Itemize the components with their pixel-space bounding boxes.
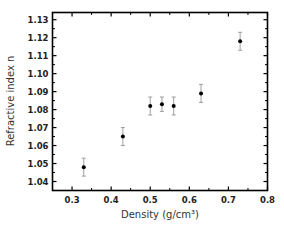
y-tick-label: 1.12 [28, 33, 49, 43]
y-tick-label: 1.08 [28, 105, 49, 115]
y-tick-label: 1.13 [28, 15, 49, 25]
y-tick-label: 1.10 [28, 69, 49, 79]
x-axis-ticks: 0.30.40.50.60.70.8 [65, 13, 276, 205]
x-tick-label: 0.8 [260, 195, 275, 205]
point-marker [160, 102, 164, 106]
data-point [172, 97, 176, 115]
data-point [82, 158, 86, 176]
data-point [199, 84, 203, 102]
point-marker [199, 91, 203, 95]
point-marker [148, 104, 152, 108]
plot-frame [53, 13, 268, 191]
x-tick-label: 0.6 [182, 195, 197, 205]
x-axis-label: Density (g/cm³) [121, 209, 199, 220]
data-point [238, 32, 242, 50]
y-tick-label: 1.04 [28, 177, 49, 187]
scatter-chart: 0.30.40.50.60.70.8 1.041.051.061.071.081… [0, 0, 284, 226]
y-axis-label: Refractive index n [5, 56, 16, 147]
x-tick-label: 0.5 [143, 195, 158, 205]
point-marker [82, 165, 86, 169]
point-marker [172, 104, 176, 108]
y-axis-ticks: 1.041.051.061.071.081.091.101.111.121.13 [28, 15, 268, 187]
data-point [148, 97, 152, 115]
point-marker [121, 135, 125, 139]
data-point [160, 97, 164, 111]
data-point [121, 128, 125, 146]
x-tick-label: 0.4 [104, 195, 119, 205]
y-tick-label: 1.05 [28, 159, 49, 169]
y-tick-label: 1.06 [28, 141, 49, 151]
y-tick-label: 1.07 [28, 123, 49, 133]
data-points [82, 32, 242, 176]
x-tick-label: 0.7 [221, 195, 236, 205]
point-marker [238, 39, 242, 43]
y-tick-label: 1.11 [28, 51, 49, 61]
x-tick-label: 0.3 [65, 195, 80, 205]
y-tick-label: 1.09 [28, 87, 49, 97]
